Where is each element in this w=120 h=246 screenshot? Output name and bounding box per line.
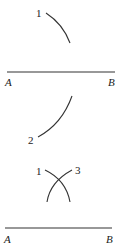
arc-1-crossing: [45, 170, 70, 202]
arc-2-label: 2: [28, 135, 34, 146]
arc-2: [38, 96, 72, 137]
arc-3-crossing-label: 3: [75, 165, 81, 176]
arc-1-label: 1: [36, 8, 42, 19]
point-b-label-top: B: [108, 77, 115, 88]
point-a-label-top: A: [5, 77, 12, 88]
arc-3-crossing: [47, 170, 72, 202]
point-b-label-bottom: B: [106, 234, 113, 245]
arc-1-crossing-label: 1: [36, 166, 42, 177]
construction-diagram: [0, 0, 120, 246]
point-a-label-bottom: A: [4, 234, 11, 245]
arc-1: [46, 13, 70, 43]
